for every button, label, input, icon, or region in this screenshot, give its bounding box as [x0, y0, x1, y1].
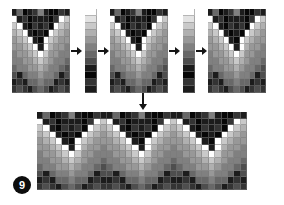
- arrow-shaft: [142, 93, 144, 104]
- grid-cell: [261, 16, 266, 23]
- motif-grid-c[interactable]: [208, 9, 266, 93]
- grid-cell: [261, 86, 266, 93]
- grid-cell: [261, 30, 266, 37]
- grid-cell: [85, 37, 97, 44]
- grid-cell: [183, 30, 195, 37]
- grid-cell: [163, 72, 168, 79]
- grid-cell: [163, 58, 168, 65]
- grid-cell: [261, 9, 266, 16]
- grid-cell: [85, 16, 97, 23]
- grid-cell: [163, 44, 168, 51]
- grid-cell: [261, 51, 266, 58]
- grid-cell: [261, 72, 266, 79]
- grid-cell: [65, 65, 70, 72]
- grid-cell: [163, 79, 168, 86]
- arrow-right-icon-2: [98, 46, 109, 55]
- grid-cell: [183, 9, 195, 16]
- grid-cell: [65, 51, 70, 58]
- arrow-down-icon: [138, 93, 147, 110]
- arrow-right-icon-3: [169, 46, 180, 55]
- grid-cell: [65, 72, 70, 79]
- grid-cell: [163, 37, 168, 44]
- arrow-head: [139, 104, 147, 110]
- grid-cell: [163, 51, 168, 58]
- grid-cell: [65, 37, 70, 44]
- grid-cell: [163, 86, 168, 93]
- grid-cell: [163, 30, 168, 37]
- grid-cell: [163, 23, 168, 30]
- grid-cell: [85, 65, 97, 72]
- grid-cell: [85, 72, 97, 79]
- grid-cell: [65, 58, 70, 65]
- grid-cell: [183, 37, 195, 44]
- arrow-head: [104, 47, 109, 55]
- grid-cell: [65, 9, 70, 16]
- grid-cell: [183, 16, 195, 23]
- grid-cell: [261, 58, 266, 65]
- palette-strip-a[interactable]: [85, 9, 97, 93]
- grid-cell: [65, 30, 70, 37]
- grid-cell: [183, 51, 195, 58]
- grid-cell: [261, 44, 266, 51]
- arrow-head: [202, 47, 207, 55]
- palette-strip-b[interactable]: [183, 9, 195, 93]
- grid-cell: [183, 65, 195, 72]
- arrow-head: [175, 47, 180, 55]
- grid-cell: [261, 37, 266, 44]
- figure-canvas: 9: [0, 0, 284, 205]
- grid-cell: [65, 16, 70, 23]
- grid-cell: [183, 86, 195, 93]
- grid-cell: [65, 23, 70, 30]
- grid-cell: [85, 79, 97, 86]
- grid-cell: [261, 23, 266, 30]
- grid-cell: [261, 65, 266, 72]
- grid-cell: [65, 86, 70, 93]
- grid-cell: [163, 16, 168, 23]
- arrow-head: [77, 47, 82, 55]
- grid-cell: [183, 72, 195, 79]
- grid-cell: [85, 51, 97, 58]
- grid-cell: [261, 79, 266, 86]
- grid-cell: [183, 58, 195, 65]
- grid-cell: [163, 9, 168, 16]
- grid-cell: [85, 86, 97, 93]
- grid-cell: [183, 23, 195, 30]
- grid-cell: [241, 184, 247, 191]
- grid-cell: [183, 44, 195, 51]
- motif-grid-b[interactable]: [110, 9, 168, 93]
- grid-cell: [163, 65, 168, 72]
- tiled-result-grid[interactable]: [37, 112, 247, 190]
- grid-cell: [85, 30, 97, 37]
- arrow-right-icon-1: [71, 46, 82, 55]
- grid-cell: [85, 58, 97, 65]
- grid-cell: [65, 79, 70, 86]
- figure-number-badge: 9: [13, 176, 31, 194]
- arrow-right-icon-4: [196, 46, 207, 55]
- grid-cell: [85, 44, 97, 51]
- motif-grid-a[interactable]: [12, 9, 70, 93]
- grid-cell: [85, 23, 97, 30]
- grid-cell: [85, 9, 97, 16]
- grid-cell: [183, 79, 195, 86]
- grid-cell: [65, 44, 70, 51]
